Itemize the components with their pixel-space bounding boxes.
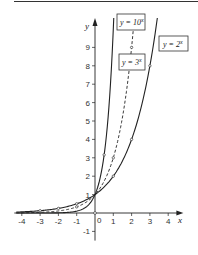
x-axis-label: x: [177, 215, 182, 225]
x-tick-label: -2: [55, 217, 63, 226]
curve-y-10-x: [16, 18, 113, 213]
label-2x-exp: x: [179, 39, 183, 45]
label-10x-base: y = 10: [119, 18, 141, 27]
labels: y x 0 y = 10x y = 3x y = 2x: [84, 14, 188, 225]
x-tick-label: -4: [18, 217, 26, 226]
svg-text:y = 3x: y = 3x: [121, 57, 142, 67]
data-point-marker: [112, 157, 114, 159]
y-tick-label: 2: [86, 172, 91, 181]
svg-text:y = 10x: y = 10x: [119, 17, 144, 27]
y-tick-label: 4: [86, 135, 91, 144]
svg-text:y = 2x: y = 2x: [162, 39, 183, 49]
exponential-chart: -4-3-2-11234-1123456789 y x 0 y = 10x y …: [0, 0, 198, 255]
label-3x-base: y = 3: [121, 58, 139, 67]
data-point-marker: [130, 138, 132, 140]
data-point-marker: [76, 203, 78, 205]
x-tick-label: -1: [73, 217, 81, 226]
y-axis-arrow-icon: [93, 18, 98, 26]
label-3x-exp: x: [138, 57, 142, 63]
x-tick-label: -3: [37, 217, 45, 226]
label-box-10x: y = 10x: [117, 14, 145, 30]
y-tick-label: 6: [86, 99, 91, 108]
data-point-marker: [130, 46, 132, 48]
label-box-3x: y = 3x: [119, 54, 145, 70]
y-tick-label: 7: [86, 80, 91, 89]
x-tick-label: 2: [129, 217, 134, 226]
data-point-marker: [103, 154, 105, 156]
y-axis-label: y: [84, 21, 89, 31]
x-tick-label: 1: [111, 217, 116, 226]
origin-label: 0: [97, 216, 102, 225]
data-point-marker: [112, 175, 114, 177]
y-tick-label: 8: [86, 62, 91, 71]
label-10x-exp: x: [140, 17, 144, 23]
data-point-marker: [149, 65, 151, 67]
x-tick-label: 3: [148, 217, 153, 226]
data-point-marker: [39, 210, 41, 212]
x-tick-label: 4: [166, 217, 171, 226]
y-tick-label: -1: [83, 227, 91, 236]
label-2x-base: y = 2: [162, 40, 180, 49]
y-tick-label: 3: [86, 154, 91, 163]
axes: -4-3-2-11234-1123456789: [14, 18, 183, 241]
label-box-2x: y = 2x: [159, 36, 188, 51]
y-tick-label: 9: [86, 43, 91, 52]
data-point-marker: [76, 206, 78, 208]
curve-y-3-x: [16, 18, 134, 213]
origin-marker: [94, 212, 97, 215]
data-point-marker: [57, 207, 59, 209]
y-tick-label: 5: [86, 117, 91, 126]
